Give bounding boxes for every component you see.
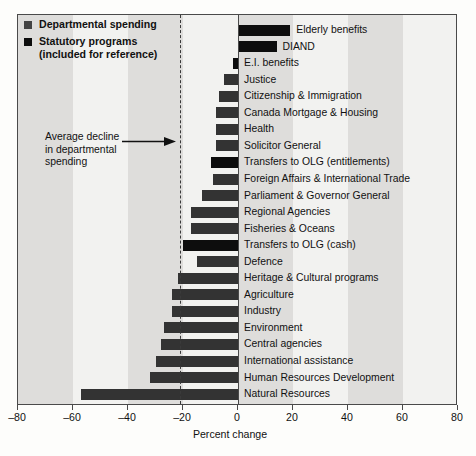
bar-citizenship-immigration: [219, 91, 238, 102]
bar-row: Industry: [18, 303, 456, 320]
bar-row: Central agencies: [18, 336, 456, 353]
x-axis-label: Percent change: [0, 428, 476, 440]
bar-row: Agriculture: [18, 287, 456, 304]
axis-tick: [402, 405, 403, 410]
bar-parliament-governor-general: [202, 190, 238, 201]
bar-label: Justice: [244, 73, 276, 87]
bar-natural-resources: [81, 389, 238, 400]
bar-row: Transfers to OLG (cash): [18, 237, 456, 254]
bar-label: Transport: [244, 404, 288, 405]
bar-foreign-affairs-international-trade: [213, 174, 238, 185]
axis-tick-label: 20: [286, 411, 298, 423]
bar-row: Natural Resources: [18, 386, 456, 403]
axis-tick-label: –20: [173, 411, 191, 423]
legend-sublabel-statutory: (included for reference): [39, 48, 157, 60]
bar-label: E.I. benefits: [244, 56, 299, 70]
bar-row: Foreign Affairs & International Trade: [18, 171, 456, 188]
bar-label: Natural Resources: [244, 387, 330, 401]
bar-transfers-to-olg-entitlements: [211, 157, 239, 168]
bar-label: Environment: [244, 321, 302, 335]
bar-label: Central agencies: [244, 337, 322, 351]
bar-label: Regional Agencies: [244, 205, 330, 219]
bar-central-agencies: [161, 339, 238, 350]
bar-label: Canada Mortgage & Housing: [244, 106, 378, 120]
bar-international-assistance: [156, 356, 239, 367]
bar-regional-agencies: [191, 207, 238, 218]
bar-environment: [164, 322, 238, 333]
bar-row: Justice: [18, 72, 456, 89]
zero-axis-line: [238, 15, 239, 404]
axis-tick-label: –80: [8, 411, 26, 423]
bar-label: Human Resources Development: [244, 371, 394, 385]
bar-label: Health: [244, 122, 274, 136]
bar-justice: [224, 74, 238, 85]
legend-label-statutory: Statutory programs: [39, 35, 137, 47]
bar-label: Heritage & Cultural programs: [244, 271, 379, 285]
bar-row: Heritage & Cultural programs: [18, 270, 456, 287]
axis-tick: [72, 405, 73, 410]
axis-tick-label: –60: [63, 411, 81, 423]
bar-health: [216, 124, 238, 135]
bar-row: Citizenship & Immigration: [18, 88, 456, 105]
bar-row: Parliament & Governor General: [18, 188, 456, 205]
average-decline-annotation: Average decline in departmental spending: [45, 131, 119, 169]
bar-label: Parliament & Governor General: [244, 189, 390, 203]
right-arrow-icon: [122, 137, 176, 146]
bar-label: Transfers to OLG (cash): [244, 238, 356, 252]
axis-tick: [182, 405, 183, 410]
bar-row: International assistance: [18, 353, 456, 370]
bar-label: Industry: [244, 304, 281, 318]
bar-label: Solicitor General: [244, 139, 321, 153]
axis-tick-label: 40: [341, 411, 353, 423]
bar-label: DIAND: [283, 40, 315, 54]
legend-item-departmental: Departmental spending: [24, 18, 157, 32]
annotation-line-3: spending: [45, 156, 119, 169]
bar-label: Transfers to OLG (entitlements): [244, 155, 390, 169]
bar-label: Citizenship & Immigration: [244, 89, 362, 103]
axis-tick: [127, 405, 128, 410]
annotation-line-2: in departmental: [45, 144, 119, 157]
bar-label: International assistance: [244, 354, 353, 368]
bar-row: Environment: [18, 320, 456, 337]
axis-tick: [237, 405, 238, 410]
bar-solicitor-general: [216, 140, 238, 151]
legend-label-statutory-wrap: Statutory programs (included for referen…: [39, 35, 157, 62]
bar-human-resources-development: [150, 372, 238, 383]
bar-industry: [172, 306, 238, 317]
bar-row: Fisheries & Oceans: [18, 221, 456, 238]
axis-tick: [292, 405, 293, 410]
bar-diand: [238, 41, 277, 52]
bar-label: Fisheries & Oceans: [244, 222, 335, 236]
bar-row: Human Resources Development: [18, 370, 456, 387]
bar-label: Agriculture: [244, 288, 294, 302]
axis-tick-label: –40: [118, 411, 136, 423]
average-decline-line: [180, 15, 181, 404]
bar-label: Elderly benefits: [296, 23, 367, 37]
bar-row: Defence: [18, 254, 456, 271]
annotation-line-1: Average decline: [45, 131, 119, 144]
bar-label: Defence: [244, 255, 283, 269]
bar-elderly-benefits: [238, 25, 290, 36]
bar-heritage-cultural-programs: [178, 273, 239, 284]
legend-swatch-departmental: [24, 21, 32, 29]
bar-rows: Elderly benefitsDIANDE.I. benefitsJustic…: [18, 15, 456, 404]
plot-area: Elderly benefitsDIANDE.I. benefitsJustic…: [17, 14, 457, 405]
bar-canada-mortgage-housing: [216, 107, 238, 118]
bar-fisheries-oceans: [191, 223, 238, 234]
axis-tick: [17, 405, 18, 410]
bar-row: Regional Agencies: [18, 204, 456, 221]
bar-row: Canada Mortgage & Housing: [18, 105, 456, 122]
bar-label: Foreign Affairs & International Trade: [244, 172, 410, 186]
bar-agriculture: [172, 289, 238, 300]
bar-transfers-to-olg-cash: [183, 240, 238, 251]
legend: Departmental spending Statutory programs…: [24, 18, 157, 65]
chart-figure: Elderly benefitsDIANDE.I. benefitsJustic…: [0, 0, 476, 456]
legend-item-statutory: Statutory programs (included for referen…: [24, 35, 157, 62]
axis-tick: [457, 405, 458, 410]
axis-tick-label: 0: [234, 411, 240, 423]
bar-defence: [197, 256, 238, 267]
x-axis-label-text: Percent change: [193, 428, 267, 440]
axis-tick: [347, 405, 348, 410]
axis-tick-label: 80: [451, 411, 463, 423]
legend-swatch-statutory: [24, 38, 32, 46]
